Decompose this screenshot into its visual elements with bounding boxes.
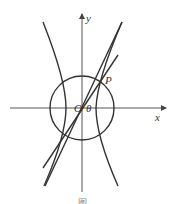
hyperbola-right-branch: [96, 22, 122, 186]
x-axis-label: x: [154, 111, 160, 123]
y-axis-label: y: [85, 12, 91, 24]
diagram-canvas: y x O θ P 图: [0, 0, 170, 204]
origin-label: O: [74, 102, 82, 114]
figure-caption: 图: [78, 198, 87, 204]
angle-label: θ: [86, 102, 92, 114]
hyperbola-left-branch: [43, 22, 66, 186]
asymptote-line: [45, 22, 122, 186]
point-p-label: P: [104, 74, 112, 86]
